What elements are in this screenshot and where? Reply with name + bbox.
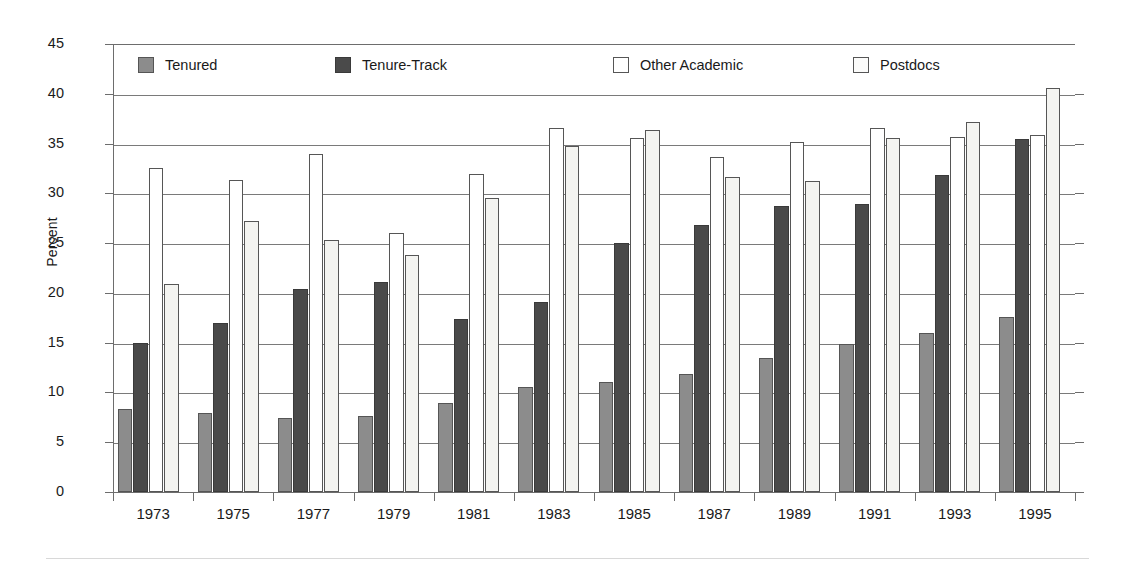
- y-tick-mark: [105, 343, 113, 344]
- bar-chart-figure: Percent 051015202530354045 1973197519771…: [0, 0, 1123, 569]
- y-tick-mark-right: [1075, 492, 1084, 493]
- bar: [149, 168, 164, 492]
- bar: [919, 333, 934, 492]
- bar-group: [434, 44, 514, 492]
- bar-group: [594, 44, 674, 492]
- y-tick-mark: [105, 392, 113, 393]
- bar-group: [835, 44, 915, 492]
- bar: [293, 289, 308, 492]
- bar-group: [193, 44, 273, 492]
- y-tick-label: 15: [24, 335, 64, 350]
- bar: [790, 142, 805, 492]
- bar: [374, 282, 389, 492]
- y-tick-label: 20: [24, 285, 64, 300]
- y-tick-mark: [105, 44, 113, 45]
- bar: [614, 243, 629, 492]
- y-tick-label: 25: [24, 235, 64, 250]
- x-tick-mark: [594, 492, 595, 501]
- bar: [324, 240, 339, 492]
- x-tick-mark: [193, 492, 194, 501]
- bars-layer: [113, 44, 1075, 492]
- x-tick-mark: [434, 492, 435, 501]
- y-tick-mark-right: [1075, 94, 1084, 95]
- bar-group: [514, 44, 594, 492]
- bar: [405, 255, 420, 492]
- bar-group: [354, 44, 434, 492]
- y-tick-label: 10: [24, 384, 64, 399]
- bar: [549, 128, 564, 492]
- x-tick-label: 1975: [188, 505, 278, 522]
- bar: [645, 130, 660, 492]
- bar-group: [995, 44, 1075, 492]
- bar-group: [754, 44, 834, 492]
- y-tick-label: 35: [24, 136, 64, 151]
- bar: [389, 233, 404, 492]
- chart-legend: TenuredTenure-TrackOther AcademicPostdoc…: [113, 52, 1075, 88]
- bar: [630, 138, 645, 492]
- x-tick-label: 1979: [349, 505, 439, 522]
- bar: [1030, 135, 1045, 492]
- bar-group: [674, 44, 754, 492]
- x-tick-label: 1995: [990, 505, 1080, 522]
- y-tick-mark-right: [1075, 293, 1084, 294]
- bar: [774, 206, 789, 492]
- x-tick-label: 1987: [669, 505, 759, 522]
- y-tick-label: 30: [24, 185, 64, 200]
- bar: [679, 374, 694, 492]
- bar: [935, 175, 950, 492]
- x-tick-mark: [113, 492, 114, 501]
- bar: [454, 319, 469, 492]
- y-tick-mark: [105, 293, 113, 294]
- y-tick-label: 40: [24, 86, 64, 101]
- x-tick-label: 1983: [509, 505, 599, 522]
- x-tick-label: 1985: [589, 505, 679, 522]
- bar: [694, 225, 709, 492]
- legend-item-postdocs[interactable]: Postdocs: [853, 52, 940, 78]
- bar: [1015, 139, 1030, 492]
- bar: [438, 403, 453, 492]
- bar: [118, 409, 133, 492]
- bar: [839, 344, 854, 492]
- x-tick-label: 1993: [910, 505, 1000, 522]
- legend-swatch-icon: [613, 57, 629, 73]
- y-tick-mark-right: [1075, 442, 1084, 443]
- x-tick-mark: [835, 492, 836, 501]
- x-tick-label: 1973: [108, 505, 198, 522]
- x-tick-label: 1977: [268, 505, 358, 522]
- bar: [855, 204, 870, 492]
- x-tick-mark: [273, 492, 274, 501]
- legend-label: Tenured: [165, 57, 217, 73]
- y-tick-label: 0: [24, 484, 64, 499]
- x-tick-label: 1981: [429, 505, 519, 522]
- legend-item-tenured[interactable]: Tenured: [138, 52, 217, 78]
- bar: [518, 387, 533, 492]
- y-tick-label: 45: [24, 36, 64, 51]
- bar: [599, 382, 614, 493]
- y-tick-mark-right: [1075, 193, 1084, 194]
- bar: [534, 302, 549, 492]
- bar: [229, 180, 244, 492]
- y-tick-mark: [105, 193, 113, 194]
- bar: [469, 174, 484, 492]
- bar-group: [915, 44, 995, 492]
- y-tick-mark-right: [1075, 392, 1084, 393]
- bar: [164, 284, 179, 492]
- legend-swatch-icon: [853, 57, 869, 73]
- x-tick-mark: [354, 492, 355, 501]
- bar: [358, 416, 373, 492]
- legend-item-tenure-track[interactable]: Tenure-Track: [335, 52, 447, 78]
- bar: [1046, 88, 1061, 492]
- bar-group: [113, 44, 193, 492]
- y-tick-mark-right: [1075, 343, 1084, 344]
- bar: [805, 181, 820, 492]
- legend-label: Postdocs: [880, 57, 940, 73]
- bar: [710, 157, 725, 493]
- bar: [309, 154, 324, 492]
- legend-item-other-academic[interactable]: Other Academic: [613, 52, 743, 78]
- bar: [759, 358, 774, 492]
- footer-divider: [46, 558, 1089, 559]
- bar: [886, 138, 901, 492]
- bar: [999, 317, 1014, 492]
- bar: [244, 221, 259, 492]
- y-tick-mark: [105, 442, 113, 443]
